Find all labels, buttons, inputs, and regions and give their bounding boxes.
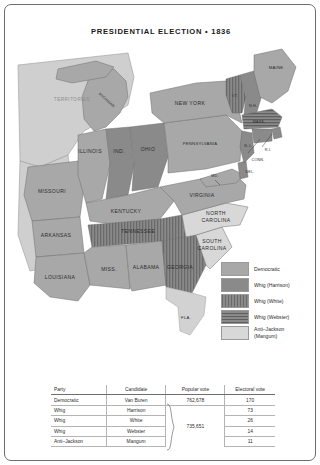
map-label-new-jersey: N.J. [244, 144, 251, 148]
cell-party-whig-webster: Whig [51, 426, 106, 436]
legend-label-anti-jackson-line2: (Mangum) [254, 333, 277, 339]
legend-label-whig-white: Whig (White) [254, 298, 283, 305]
legend-label-democratic: Democratic [254, 266, 280, 273]
table-header-electoral-vote: Electoral vote [225, 385, 275, 395]
cell-electoral-van-buren: 170 [225, 395, 275, 405]
state-rhode-island [272, 127, 282, 139]
legend-swatch-democratic [221, 262, 249, 276]
table-header-candidate: Candidate [106, 385, 166, 395]
map-label-new-hampshire: N.H. [249, 104, 257, 108]
legend-item-anti-jackson: Anti–Jackson (Mangum) [221, 326, 313, 340]
map-label-missouri: MISSOURI [38, 188, 66, 194]
election-map-page: PRESIDENTIAL ELECTION • 1836 [0, 0, 320, 465]
legend-item-whig-webster: Whig (Webster) [221, 310, 313, 324]
cell-popular-grouped: 735,651 [166, 405, 225, 447]
map-label-florida: FLA. [181, 315, 191, 320]
cell-party-whig-harrison: Whig [51, 405, 106, 415]
map-label-south-carolina-line2: CAROLINA [198, 245, 227, 251]
map-label-maine: MAINE [269, 65, 284, 70]
state-indiana [106, 127, 134, 199]
map-label-pennsylvania: PENNSYLVANIA [183, 141, 218, 146]
page-frame: PRESIDENTIAL ELECTION • 1836 [4, 4, 316, 461]
legend-label-whig-harrison: Whig (Harrison) [254, 282, 290, 289]
map-label-georgia: GEORGIA [167, 264, 193, 270]
table-row: Whig Webster 14 [51, 426, 275, 436]
map-label-indiana: IND. [113, 148, 125, 154]
cell-candidate-mangum: Mangum [106, 436, 166, 446]
state-connecticut [252, 129, 272, 143]
legend-swatch-whig-white [221, 294, 249, 308]
map-label-new-york: NEW YORK [175, 100, 206, 106]
map-label-louisiana: LOUISIANA [45, 274, 76, 280]
legend-swatch-whig-harrison [221, 278, 249, 292]
map-label-kentucky: KENTUCKY [111, 208, 142, 214]
map-label-vermont: VT. [232, 94, 238, 98]
map-label-mississippi: MISS. [101, 266, 117, 272]
state-maine [254, 49, 296, 103]
table-header-row: Party Candidate Popular vote Electoral v… [51, 385, 275, 395]
map-label-illinois: ILLINOIS [78, 148, 102, 154]
map-label-south-carolina: SOUTH [202, 238, 222, 244]
table-header-party: Party [51, 385, 106, 395]
map-label-territories: TERRITORIES [54, 97, 90, 102]
cell-party-whig-white: Whig [51, 416, 106, 426]
cell-candidate-harrison: Harrison [106, 405, 166, 415]
map-label-tennessee: TENNESSEE [121, 228, 155, 234]
table-row: Whig White 26 [51, 416, 275, 426]
map-label-connecticut: CONN. [252, 158, 265, 162]
legend-item-whig-white: Whig (White) [221, 294, 313, 308]
cell-electoral-white: 26 [225, 416, 275, 426]
map-label-alabama: ALABAMA [133, 264, 160, 270]
map-label-north-carolina: NORTH [206, 210, 226, 216]
cell-candidate-white: White [106, 416, 166, 426]
cell-candidate-webster: Webster [106, 426, 166, 436]
cell-popular-van-buren: 762,678 [166, 395, 225, 405]
map-label-maryland: MD. [211, 174, 218, 178]
table-header-popular-vote: Popular vote [166, 385, 225, 395]
election-results-table: Party Candidate Popular vote Electoral v… [51, 385, 275, 447]
cell-electoral-harrison: 73 [225, 405, 275, 415]
state-illinois [78, 129, 110, 203]
cell-party-anti-jackson: Anti–Jackson [51, 436, 106, 446]
map-label-delaware: DEL. [246, 170, 255, 174]
legend-swatch-anti-jackson [221, 326, 249, 340]
table-row: Democratic Van Buren 762,678 170 [51, 395, 275, 405]
map-label-arkansas: ARKANSAS [41, 232, 72, 238]
map-label-massachusetts: MASS. [253, 120, 265, 124]
results-table-container: Party Candidate Popular vote Electoral v… [51, 385, 275, 447]
cell-candidate-van-buren: Van Buren [106, 395, 166, 405]
map-label-north-carolina-line2: CAROLINA [202, 217, 231, 223]
cell-electoral-mangum: 11 [225, 436, 275, 446]
table-row: Whig Harrison 735,651 73 [51, 405, 275, 415]
state-ohio [130, 123, 168, 191]
map-label-virginia: VIRGINIA [189, 192, 214, 198]
map-legend: Democratic Whig (Harrison) Whig (White) … [221, 262, 313, 342]
legend-label-whig-webster: Whig (Webster) [254, 314, 289, 321]
cell-party-democratic: Democratic [51, 395, 106, 405]
legend-label-anti-jackson: Anti–Jackson (Mangum) [254, 326, 284, 339]
state-florida [166, 287, 206, 335]
legend-item-democratic: Democratic [221, 262, 313, 276]
cell-electoral-webster: 14 [225, 426, 275, 436]
map-label-ohio: OHIO [141, 146, 155, 152]
legend-item-whig-harrison: Whig (Harrison) [221, 278, 313, 292]
legend-swatch-whig-webster [221, 310, 249, 324]
map-label-rhode-island: R.I. [265, 148, 272, 152]
legend-label-anti-jackson-line1: Anti–Jackson [254, 326, 284, 332]
table-row: Anti–Jackson Mangum 11 [51, 436, 275, 446]
